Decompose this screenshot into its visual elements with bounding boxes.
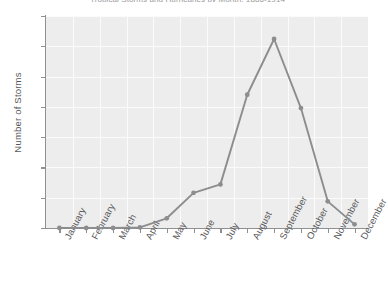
- data-point-october: [299, 106, 304, 111]
- data-point-september: [272, 37, 277, 42]
- data-point-march: [111, 226, 116, 231]
- data-point-august: [245, 92, 250, 97]
- data-point-november: [325, 199, 330, 204]
- data-point-december: [352, 222, 357, 227]
- storms-line: [59, 39, 354, 228]
- storms-markers: [57, 37, 357, 231]
- data-point-july: [218, 182, 223, 187]
- data-point-february: [84, 226, 89, 231]
- data-point-april: [138, 225, 143, 230]
- data-point-january: [57, 226, 62, 231]
- data-point-june: [191, 190, 196, 195]
- data-point-may: [164, 216, 169, 221]
